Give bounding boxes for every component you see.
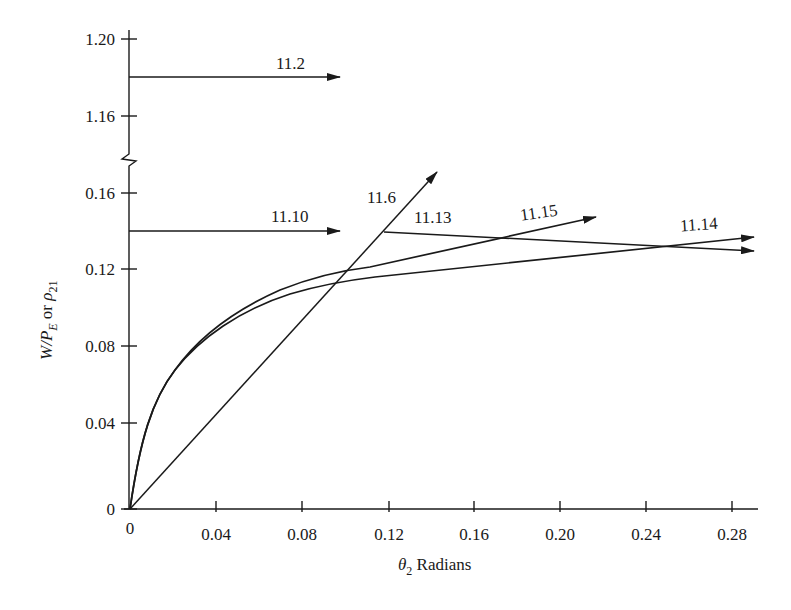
- x-tick-labels: 0 0.04 0.08 0.12 0.16 0.20 0.24 0.28: [126, 519, 747, 544]
- y-tick-1-16: 1.16: [85, 107, 115, 126]
- series-11-13-arrow: [384, 232, 754, 251]
- y-axis-w: W/P: [37, 331, 56, 360]
- y-axis-rho-sub: 21: [46, 281, 60, 293]
- y-axis: [121, 30, 137, 509]
- label-11-6: 11.6: [367, 188, 396, 207]
- label-11-2: 11.2: [276, 54, 305, 73]
- y-tick-0-16: 0.16: [85, 184, 115, 203]
- y-tick-labels: 1.20 1.16 0.16 0.12 0.08 0.04 0: [85, 30, 115, 519]
- x-tick-0-20: 0.20: [545, 525, 575, 544]
- y-tick-0-08: 0.08: [85, 337, 115, 356]
- y-tick-0-04: 0.04: [85, 414, 115, 433]
- x-tick-0-08: 0.08: [287, 525, 317, 544]
- y-axis-rho: ρ: [37, 293, 56, 302]
- x-tick-0-04: 0.04: [201, 525, 231, 544]
- axis-break-icon: [122, 150, 136, 509]
- x-axis: [124, 501, 758, 512]
- chart: 1.20 1.16 0.16 0.12 0.08 0.04 0 0 0.04 0…: [0, 0, 791, 610]
- series-11-14-curve: [130, 237, 754, 509]
- x-tick-0-24: 0.24: [631, 525, 661, 544]
- x-tick-0-12: 0.12: [374, 525, 404, 544]
- x-tick-0-28: 0.28: [717, 525, 747, 544]
- x-tick-0: 0: [126, 519, 135, 538]
- y-tick-0-12: 0.12: [85, 260, 115, 279]
- y-tick-0: 0: [107, 500, 116, 519]
- label-11-13: 11.13: [414, 208, 452, 227]
- x-axis-rest: Radians: [412, 555, 471, 574]
- y-tick-1-20: 1.20: [85, 30, 115, 49]
- series-labels: 11.2 11.10 11.6 11.13 11.15 11.14: [271, 54, 719, 235]
- y-axis-title: W/PE or ρ21: [37, 281, 60, 360]
- label-11-14: 11.14: [679, 214, 718, 236]
- y-axis-or: or: [37, 301, 56, 324]
- x-axis-title: θ2 Radians: [398, 555, 471, 578]
- label-11-15: 11.15: [519, 201, 559, 225]
- label-11-10: 11.10: [271, 207, 309, 226]
- x-axis-theta: θ: [398, 555, 406, 574]
- x-tick-0-16: 0.16: [459, 525, 489, 544]
